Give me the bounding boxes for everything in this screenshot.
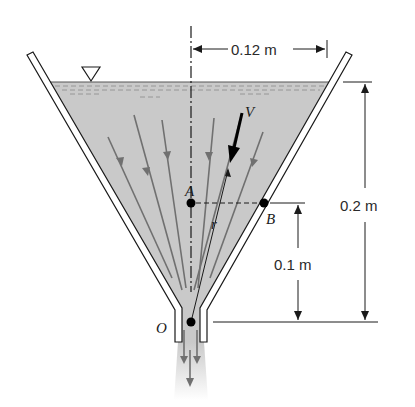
point-a-label: A: [184, 183, 195, 199]
point-b: [260, 199, 269, 208]
exit-jet: [174, 342, 208, 400]
point-o: [187, 318, 196, 327]
free-surface-icon: [82, 67, 100, 81]
fluid-region: [50, 82, 330, 342]
radius-label: r: [211, 216, 217, 232]
point-a: [187, 199, 196, 208]
dimension-total-height-label: 0.2 m: [340, 197, 378, 214]
dimension-ab-height-label: 0.1 m: [274, 256, 312, 273]
funnel-diagram: V A B O r 0.12 m 0.2 m 0.1 m: [0, 0, 415, 407]
point-b-label: B: [266, 211, 275, 227]
dimension-horizontal-label: 0.12 m: [231, 41, 277, 58]
point-o-label: O: [156, 320, 167, 336]
